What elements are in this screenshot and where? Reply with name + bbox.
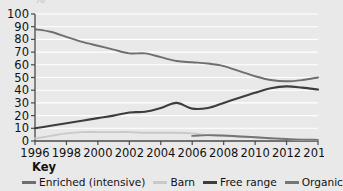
legend-item-label: Barn xyxy=(170,176,195,188)
y-axis-tick-label: 60 xyxy=(14,58,29,72)
legend-item-label: Enriched (intensive) xyxy=(39,176,145,188)
x-axis-tick-label: 2010 xyxy=(240,146,269,160)
y-axis-tick-label: 50 xyxy=(14,71,29,85)
y-axis-tick-label: 80 xyxy=(14,32,29,46)
series-line-organic xyxy=(192,135,318,140)
chart-legend: Key Enriched (intensive)BarnFree rangeOr… xyxy=(0,160,324,188)
legend-swatch-icon xyxy=(203,181,217,184)
y-axis-tick-label: 70 xyxy=(14,45,29,59)
series-line-free-range xyxy=(35,86,318,128)
x-axis-tick-label: 2012 xyxy=(272,146,301,160)
y-axis-tick-label: 90 xyxy=(14,20,29,34)
x-axis-tick-label: 1996 xyxy=(20,146,49,160)
x-axis-tick-label: 2008 xyxy=(209,146,238,160)
y-axis-tick-label: 40 xyxy=(14,83,29,97)
legend-item-organic[interactable]: Organic xyxy=(285,176,343,188)
legend-swatch-icon xyxy=(22,181,36,184)
legend-item-free-range[interactable]: Free range xyxy=(203,176,277,188)
y-axis-tick-label: 10 xyxy=(14,121,29,135)
x-axis-tick-label: 2002 xyxy=(115,146,144,160)
x-axis-tick-label: 2014 xyxy=(303,146,324,160)
legend-item-label: Free range xyxy=(220,176,277,188)
x-axis-tick-label: 2004 xyxy=(146,146,175,160)
x-axis-tick-label: 1998 xyxy=(52,146,81,160)
y-axis-tick-label: 30 xyxy=(14,96,29,110)
chart-plot-area: 0102030405060708090100199619982000200220… xyxy=(0,0,324,160)
legend-item-label: Organic xyxy=(302,176,343,188)
legend-swatch-icon xyxy=(285,181,299,184)
legend-title: Key xyxy=(32,160,324,174)
series-line-enriched-intensive xyxy=(35,29,318,81)
x-axis-tick-label: 2000 xyxy=(83,146,112,160)
x-axis-tick-label: 2006 xyxy=(178,146,207,160)
legend-item-enriched-intensive[interactable]: Enriched (intensive) xyxy=(22,176,145,188)
legend-swatch-icon xyxy=(153,181,167,184)
y-axis-tick-label: 100 xyxy=(7,7,29,21)
legend-item-barn[interactable]: Barn xyxy=(153,176,195,188)
y-axis-tick-label: 20 xyxy=(14,109,29,123)
legend-items: Enriched (intensive)BarnFree rangeOrgani… xyxy=(22,176,324,188)
